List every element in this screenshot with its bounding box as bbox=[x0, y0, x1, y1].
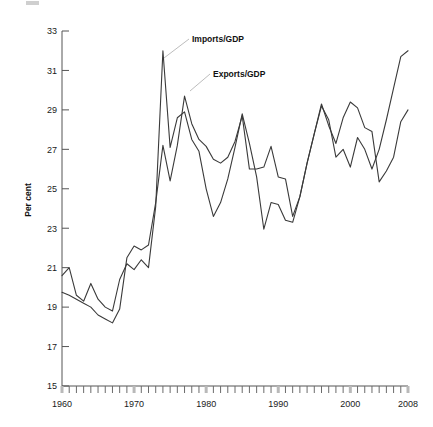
annotation-label-exports-gdp: Exports/GDP bbox=[213, 69, 266, 79]
x-tick-label: 1970 bbox=[124, 399, 144, 409]
x-tick-label: 1990 bbox=[268, 399, 288, 409]
y-axis-title: Per cent bbox=[23, 183, 33, 217]
x-axis-ticks bbox=[62, 386, 408, 393]
annotation-label-imports-gdp: Imports/GDP bbox=[192, 34, 244, 44]
series-annotations: Imports/GDPExports/GDP bbox=[164, 34, 266, 91]
x-tick-label: 1960 bbox=[52, 399, 72, 409]
y-tick-label: 33 bbox=[47, 26, 57, 36]
x-tick-label: 2000 bbox=[340, 399, 360, 409]
x-tick-label: 1980 bbox=[196, 399, 216, 409]
y-tick-label: 15 bbox=[47, 381, 57, 391]
annotation-leader-line bbox=[190, 74, 210, 91]
data-series-group bbox=[62, 51, 408, 323]
y-tick-label: 29 bbox=[47, 105, 57, 115]
imports-exports-gdp-line-chart: 15171921232527293133 1960197019801990200… bbox=[0, 0, 433, 427]
annotation-leader-line bbox=[164, 39, 189, 58]
y-tick-label: 17 bbox=[47, 342, 57, 352]
y-tick-label: 21 bbox=[47, 263, 57, 273]
series-line-imports-gdp bbox=[62, 51, 408, 311]
x-tick-label: 2008 bbox=[398, 399, 418, 409]
y-axis-tick-labels: 15171921232527293133 bbox=[47, 26, 57, 391]
y-tick-label: 19 bbox=[47, 302, 57, 312]
series-line-exports-gdp bbox=[62, 96, 408, 323]
x-axis-tick-labels: 196019701980199020002008 bbox=[52, 399, 418, 409]
page-crop-artifact bbox=[26, 1, 39, 5]
y-axis-ticks bbox=[62, 31, 69, 386]
y-axis: 15171921232527293133 bbox=[47, 26, 69, 391]
y-tick-label: 25 bbox=[47, 184, 57, 194]
chart-container: 15171921232527293133 1960197019801990200… bbox=[0, 0, 433, 427]
x-axis: 196019701980199020002008 bbox=[52, 386, 418, 409]
y-tick-label: 27 bbox=[47, 145, 57, 155]
y-tick-label: 31 bbox=[47, 66, 57, 76]
y-tick-label: 23 bbox=[47, 224, 57, 234]
